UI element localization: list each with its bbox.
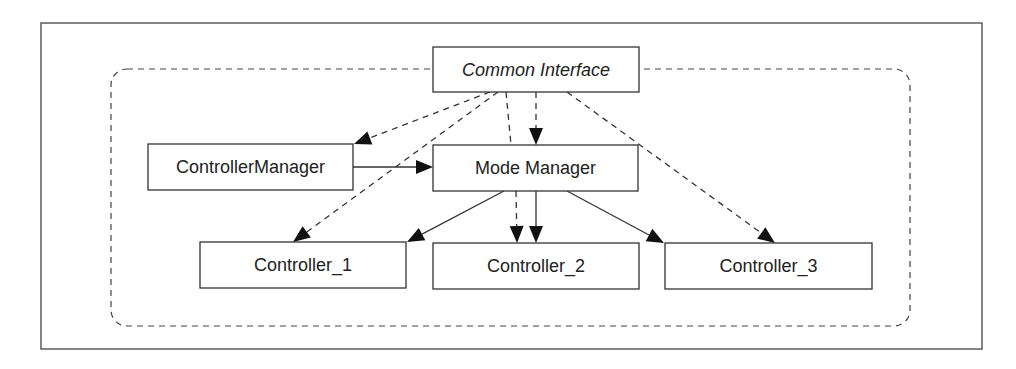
arrowhead-icon: [529, 128, 543, 145]
node-label: Controller_3: [719, 256, 817, 277]
arrowhead-icon: [757, 227, 775, 243]
node-mode-manager: Mode Manager: [433, 145, 638, 191]
arrowhead-icon: [510, 226, 524, 243]
edge-mode_manager-to-controller_2: [529, 191, 543, 243]
edge-line: [370, 92, 490, 138]
node-label: Controller_2: [487, 256, 585, 277]
arrowhead-icon: [416, 160, 433, 174]
node-controller-3: Controller_3: [665, 243, 872, 289]
edge-line: [516, 191, 517, 226]
node-common-interface: Common Interface: [433, 47, 639, 92]
edge-line: [567, 191, 649, 235]
edge-mode_manager-to-controller_3: [567, 191, 664, 243]
edge-controller_manager-to-mode_manager: [353, 160, 433, 174]
arrowhead-icon: [407, 228, 425, 242]
node-controller-2: Controller_2: [433, 243, 639, 289]
arrowhead-icon: [646, 229, 664, 243]
node-label: ControllerManager: [176, 157, 325, 177]
node-label: Controller_1: [254, 255, 352, 276]
node-label: Mode Manager: [475, 158, 596, 178]
arrowhead-icon: [354, 131, 372, 144]
architecture-diagram: Common InterfaceControllerManagerMode Ma…: [0, 0, 1016, 369]
edge-common_interface-to-mode_manager: [529, 92, 543, 145]
node-controller-manager: ControllerManager: [148, 144, 353, 190]
node-controller-1: Controller_1: [200, 242, 406, 288]
node-label: Common Interface: [462, 60, 610, 80]
edge-line: [422, 191, 504, 234]
edge-mode_manager-to-controller_1: [407, 191, 504, 242]
arrowhead-icon: [293, 226, 311, 242]
edge-common_interface-to-controller_manager: [354, 92, 490, 144]
edge-line: [506, 92, 511, 145]
arrowhead-icon: [529, 226, 543, 243]
